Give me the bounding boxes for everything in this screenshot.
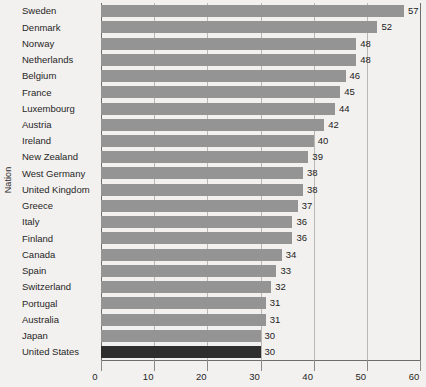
x-tick-label: 60 bbox=[409, 372, 420, 382]
bar: 33 bbox=[101, 265, 276, 277]
category-label: United Kingdom bbox=[16, 182, 98, 198]
bar: 57 bbox=[101, 5, 404, 17]
category-label: Sweden bbox=[16, 3, 98, 19]
bar-value-label: 38 bbox=[307, 169, 318, 179]
bar: 38 bbox=[101, 167, 303, 179]
bar: 38 bbox=[101, 184, 303, 196]
category-axis: SwedenDenmarkNorwayNetherlandsBelgiumFra… bbox=[16, 3, 98, 360]
category-label: Luxembourg bbox=[16, 100, 98, 116]
bar-value-label: 30 bbox=[265, 347, 276, 357]
x-tick-label: 50 bbox=[356, 372, 367, 382]
bar: 45 bbox=[101, 86, 340, 98]
bar-series: 5752484846454442403938383736363433323131… bbox=[101, 3, 420, 360]
bar: 30 bbox=[101, 330, 261, 342]
bar-row: 39 bbox=[101, 149, 420, 165]
bar-value-label: 33 bbox=[280, 266, 291, 276]
bar: 46 bbox=[101, 70, 346, 82]
category-label: Portugal bbox=[16, 295, 98, 311]
category-label: Japan bbox=[16, 328, 98, 344]
bar: 44 bbox=[101, 103, 335, 115]
x-axis: 0102030405060 bbox=[101, 360, 420, 387]
bar-row: 31 bbox=[101, 295, 420, 311]
bar-row: 34 bbox=[101, 247, 420, 263]
category-label: Netherlands bbox=[16, 52, 98, 68]
bar-row: 37 bbox=[101, 198, 420, 214]
category-label: Italy bbox=[16, 214, 98, 230]
bar-row: 45 bbox=[101, 84, 420, 100]
bar-value-label: 30 bbox=[265, 331, 276, 341]
category-label: Canada bbox=[16, 247, 98, 263]
bar-value-label: 44 bbox=[339, 104, 350, 114]
bar: 48 bbox=[101, 38, 356, 50]
bar-value-label: 40 bbox=[318, 136, 329, 146]
x-tick bbox=[101, 360, 102, 371]
bar-value-label: 48 bbox=[360, 39, 371, 49]
bar: 31 bbox=[101, 297, 266, 309]
category-label: Belgium bbox=[16, 68, 98, 84]
y-axis-title-text: Nation bbox=[3, 167, 13, 194]
x-tick-label: 40 bbox=[302, 372, 313, 382]
bar-row: 36 bbox=[101, 230, 420, 246]
bar: 48 bbox=[101, 54, 356, 66]
category-label: Finland bbox=[16, 230, 98, 246]
bar-chart: Nation SwedenDenmarkNorwayNetherlandsBel… bbox=[0, 0, 426, 387]
category-label: Denmark bbox=[16, 19, 98, 35]
bar: 42 bbox=[101, 119, 324, 131]
bar-value-label: 52 bbox=[381, 23, 392, 33]
category-label: France bbox=[16, 84, 98, 100]
category-label: Ireland bbox=[16, 133, 98, 149]
bar-row: 31 bbox=[101, 311, 420, 327]
bar-value-label: 36 bbox=[296, 234, 307, 244]
category-label: West Germany bbox=[16, 165, 98, 181]
category-label: Greece bbox=[16, 198, 98, 214]
category-label: Norway bbox=[16, 35, 98, 51]
bar-value-label: 31 bbox=[270, 315, 281, 325]
bar-value-label: 45 bbox=[344, 88, 355, 98]
bar-row: 42 bbox=[101, 117, 420, 133]
y-axis-title: Nation bbox=[0, 0, 16, 360]
bar-row: 33 bbox=[101, 263, 420, 279]
plot-area: 5752484846454442403938383736363433323131… bbox=[101, 3, 420, 360]
bar-row: 40 bbox=[101, 133, 420, 149]
bar: 39 bbox=[101, 151, 308, 163]
bar: 40 bbox=[101, 135, 314, 147]
bar-row: 36 bbox=[101, 214, 420, 230]
bar-row: 57 bbox=[101, 3, 420, 19]
x-tick bbox=[207, 360, 208, 371]
bar-value-label: 36 bbox=[296, 217, 307, 227]
x-tick bbox=[154, 360, 155, 371]
gridline bbox=[420, 3, 421, 360]
bar-row: 48 bbox=[101, 35, 420, 51]
bar-row: 38 bbox=[101, 182, 420, 198]
bar-value-label: 32 bbox=[275, 282, 286, 292]
bar-value-label: 34 bbox=[286, 250, 297, 260]
bar-value-label: 31 bbox=[270, 299, 281, 309]
bar-row: 30 bbox=[101, 328, 420, 344]
bar-row: 48 bbox=[101, 52, 420, 68]
bar-value-label: 37 bbox=[302, 201, 313, 211]
x-tick bbox=[314, 360, 315, 371]
x-tick bbox=[261, 360, 262, 371]
bar-row: 46 bbox=[101, 68, 420, 84]
bar-value-label: 46 bbox=[350, 71, 361, 81]
category-label: Austria bbox=[16, 117, 98, 133]
category-label: United States bbox=[16, 344, 98, 360]
bar: 31 bbox=[101, 314, 266, 326]
bar: 37 bbox=[101, 200, 298, 212]
bar: 32 bbox=[101, 281, 271, 293]
bar-value-label: 48 bbox=[360, 55, 371, 65]
bar-value-label: 42 bbox=[328, 120, 339, 130]
bar: 36 bbox=[101, 216, 292, 228]
x-tick bbox=[367, 360, 368, 371]
x-tick-label: 10 bbox=[143, 372, 154, 382]
bar: 36 bbox=[101, 232, 292, 244]
x-tick-label: 30 bbox=[249, 372, 260, 382]
bar-value-label: 39 bbox=[312, 152, 323, 162]
category-label: Switzerland bbox=[16, 279, 98, 295]
bar: 52 bbox=[101, 21, 377, 33]
category-label: Spain bbox=[16, 263, 98, 279]
category-label: Australia bbox=[16, 311, 98, 327]
bar-row: 44 bbox=[101, 100, 420, 116]
category-label: New Zealand bbox=[16, 149, 98, 165]
bar-row: 38 bbox=[101, 165, 420, 181]
